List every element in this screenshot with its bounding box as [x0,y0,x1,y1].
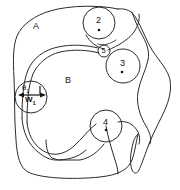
node-label-2: 2 [96,16,101,25]
node-label-5: 5 [102,47,106,55]
width-symbol: W [25,95,33,104]
theta-subscript: 1 [26,88,29,94]
outer-right-lobe-path [118,9,171,173]
node-dot-2 [98,29,101,32]
circle4-descender-path [106,126,118,174]
width-arrow-head-right [40,92,46,97]
width-subscript: 1 [33,100,36,106]
region-b-lower-boundary-path [27,122,96,154]
node-dot-4 [105,129,108,132]
diagram-canvas: A B 2 3 4 5 θ1 W1 [0,0,180,190]
circle5-inner-arc-path [98,40,116,45]
node-dot-3 [121,71,124,74]
theta-annotation: θ1 [22,84,29,94]
width-annotation: W1 [25,96,36,106]
outer-boundary-path [13,6,138,178]
node-label-3: 3 [120,59,125,68]
region-label-a: A [33,22,39,31]
region-label-b: B [65,76,71,85]
node-label-4: 4 [103,118,108,127]
